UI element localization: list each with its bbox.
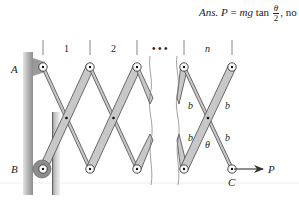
label-b-lower-left: b [188,132,193,143]
answer-lhs: P [221,6,228,18]
fixed-wall [23,52,33,195]
bay-label-n: n [205,43,210,54]
answer-prefix: Ans. [199,6,218,18]
break-line-right [176,56,179,185]
label-c: C [228,176,236,188]
scissor-members [40,64,235,172]
bay-dividers [43,40,232,55]
answer-fraction: θ 2 [273,4,279,23]
break-line-left [149,56,152,185]
label-b-lower-right: b [225,132,230,143]
label-p: P [267,163,275,175]
bay-label-1: 1 [64,43,69,54]
label-b-upper-left: b [188,100,193,111]
label-a: A [10,63,18,75]
scissor-linkage-figure: Ans. P = mg tan θ 2 , no [0,0,299,214]
answer-suffix: , no [280,6,297,18]
fraction-denominator: 2 [273,14,279,23]
label-b: B [11,163,18,175]
answer-equals: = [230,6,236,18]
bay-label-ellipsis: • • • [152,43,168,54]
answer-func: tan [256,6,269,18]
linkage-drawing: A B C P b b b b θ 1 2 • • • n [0,0,299,214]
answer-formula: Ans. P = mg tan θ 2 , no [199,4,297,23]
answer-mg: mg [239,6,252,18]
bay-label-2: 2 [111,43,116,54]
label-theta: θ [205,139,210,150]
label-b-upper-right: b [225,100,230,111]
